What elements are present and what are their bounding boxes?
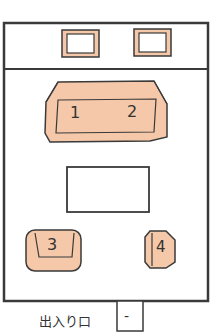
door-mark: -: [124, 308, 129, 324]
seat-3-label: 3: [47, 235, 57, 254]
sofa: [45, 81, 167, 142]
entrance-door: [117, 301, 143, 331]
table: [67, 167, 149, 212]
entrance-label: 出入り口: [39, 311, 91, 330]
window-2: [134, 29, 171, 56]
floor-plan: [0, 0, 219, 336]
window-1: [62, 30, 99, 57]
seat-4-label: 4: [156, 238, 166, 256]
seat-2-label: 2: [127, 102, 137, 121]
seat-1-label: 1: [70, 103, 80, 122]
